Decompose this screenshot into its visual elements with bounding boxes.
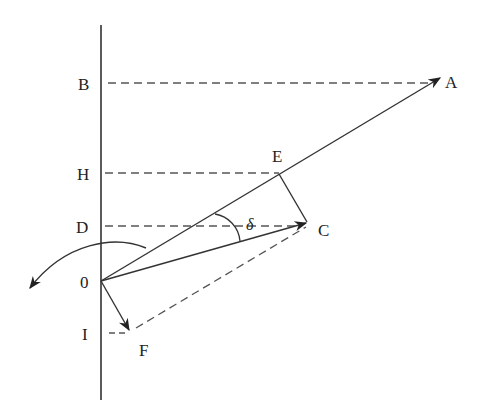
label-E: E [272, 147, 282, 166]
label-O: 0 [80, 273, 89, 292]
label-delta: δ [246, 216, 254, 233]
label-A: A [445, 73, 458, 92]
segment-EC [279, 174, 307, 222]
vector-OC [101, 223, 306, 281]
angle-arc-delta [215, 214, 240, 241]
label-I: I [82, 325, 88, 344]
label-F: F [139, 341, 148, 360]
vector-diagram: B H D 0 I A E C F δ [0, 0, 482, 413]
vector-OF [101, 281, 129, 330]
label-H: H [77, 165, 89, 184]
dashed-line-F-C [136, 227, 306, 328]
label-B: B [78, 75, 89, 94]
label-C: C [318, 221, 329, 240]
vector-OA [101, 78, 440, 281]
label-D: D [76, 218, 88, 237]
